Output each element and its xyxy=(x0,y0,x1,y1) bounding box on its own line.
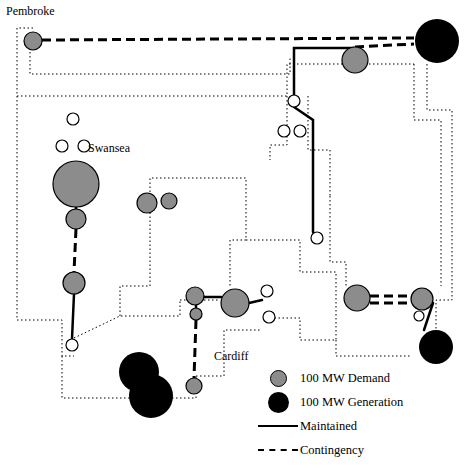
open-node-far-east xyxy=(414,311,424,321)
edge-maintained-southwest xyxy=(72,294,74,339)
legend: 100 MW Demand 100 MW Generation Maintain… xyxy=(256,366,466,462)
generation-node-south-b xyxy=(129,374,173,418)
open-node-central xyxy=(311,232,323,244)
boundary-central-east xyxy=(246,240,336,340)
legend-label-maintained: Maintained xyxy=(300,419,357,434)
maintained-edges xyxy=(72,48,433,386)
demand-node-mid-b xyxy=(161,193,177,209)
legend-row-maintained: Maintained xyxy=(256,414,466,438)
contingency-edges xyxy=(42,38,414,378)
open-node-swansea-b xyxy=(56,140,68,152)
legend-label-generation: 100 MW Generation xyxy=(300,395,403,410)
demand-node-east xyxy=(344,285,370,311)
generation-nodes xyxy=(119,19,459,418)
demand-node-cardiff xyxy=(221,289,249,317)
edge-pembroke-generation xyxy=(42,38,414,40)
demand-dot-icon xyxy=(256,370,300,387)
boundary-east-link xyxy=(330,196,346,286)
demand-node-cardiff-west xyxy=(186,287,204,305)
boundary-far-east-2 xyxy=(427,64,452,330)
open-node-cardiff-a xyxy=(261,285,273,297)
edge-maintained-cardiff-east xyxy=(249,300,262,303)
open-node-cardiff-b xyxy=(263,311,275,323)
demand-node-pembroke xyxy=(24,32,42,50)
demand-node-mid-a xyxy=(137,193,157,213)
boundary-east-mid xyxy=(308,96,330,196)
legend-row-contingency: Contingency xyxy=(256,438,466,462)
label-pembroke: Pembroke xyxy=(6,4,55,19)
open-node-southwest xyxy=(66,339,78,351)
demand-node-far-east xyxy=(411,288,433,310)
demand-node-cardiff-small xyxy=(190,308,202,320)
generation-node-pembroke xyxy=(415,19,459,63)
demand-node-west xyxy=(63,272,85,294)
generation-dot-icon xyxy=(256,392,300,413)
open-node-swansea-a xyxy=(67,113,79,125)
demand-nodes xyxy=(24,32,433,394)
legend-label-demand: 100 MW Demand xyxy=(300,371,390,386)
edge-swansea-south xyxy=(74,229,76,272)
boundary-east-south xyxy=(336,340,410,356)
demand-node-swansea-south xyxy=(66,209,86,229)
generation-node-east xyxy=(419,330,453,364)
edge-demand-generation-north xyxy=(355,44,414,47)
boundary-diagonal xyxy=(74,300,180,338)
legend-row-generation: 100 MW Generation xyxy=(256,390,466,414)
legend-label-contingency: Contingency xyxy=(300,443,364,458)
demand-node-south xyxy=(186,378,202,394)
legend-row-demand: 100 MW Demand xyxy=(256,366,466,390)
label-swansea: Swansea xyxy=(88,141,130,156)
boundary-inner-north xyxy=(30,52,290,74)
open-node-north-junction xyxy=(288,95,300,107)
edge-cardiff-north xyxy=(194,320,196,378)
solid-line-icon xyxy=(256,425,300,427)
demand-node-north-east xyxy=(342,47,368,73)
demand-node-swansea xyxy=(53,161,99,207)
boundary-mid-west xyxy=(120,210,150,316)
label-cardiff: Cardiff xyxy=(214,349,248,364)
network-diagram-figure: Pembroke Swansea Cardiff 100 MW Demand 1… xyxy=(0,0,476,472)
dashed-line-icon xyxy=(256,449,300,451)
open-node-mid-b xyxy=(294,125,306,137)
open-node-mid-a xyxy=(278,125,290,137)
